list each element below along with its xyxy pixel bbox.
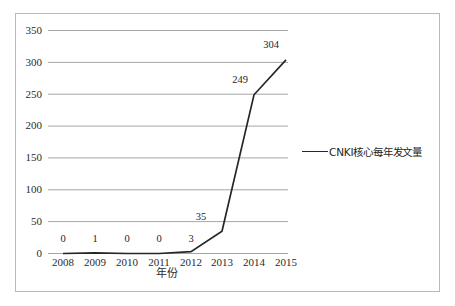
data-label-2012: 3 xyxy=(180,233,202,244)
ytick-label-350: 350 xyxy=(8,25,42,36)
data-label-2010: 0 xyxy=(116,233,138,244)
data-label-2008: 0 xyxy=(52,233,74,244)
xtick-label-2014: 2014 xyxy=(237,257,271,268)
legend-line-swatch-icon xyxy=(302,151,328,152)
chart-legend: CNKI核心每年发文量 xyxy=(302,144,422,159)
xtick-label-2015: 2015 xyxy=(269,257,303,268)
legend-entry-label: CNKI核心每年发文量 xyxy=(329,144,422,159)
ytick-label-200: 200 xyxy=(8,120,42,131)
xtick-label-2010: 2010 xyxy=(110,257,144,268)
data-label-2014: 249 xyxy=(228,74,252,85)
ytick-label-50: 50 xyxy=(8,216,42,227)
data-label-2013: 35 xyxy=(190,211,212,222)
xtick-label-2009: 2009 xyxy=(78,257,112,268)
x-axis-title: 年份 xyxy=(137,268,197,280)
xtick-label-2012: 2012 xyxy=(174,257,208,268)
chart-figure: 350 300 250 200 150 100 50 0 2008 2009 2… xyxy=(0,0,455,306)
data-label-2011: 0 xyxy=(148,233,170,244)
ytick-label-150: 150 xyxy=(8,152,42,163)
xtick-label-2008: 2008 xyxy=(46,257,80,268)
ytick-label-300: 300 xyxy=(8,57,42,68)
data-label-2015: 304 xyxy=(259,39,283,50)
ytick-label-0: 0 xyxy=(8,248,42,259)
xtick-label-2013: 2013 xyxy=(205,257,239,268)
data-label-2009: 1 xyxy=(84,233,106,244)
ytick-label-100: 100 xyxy=(8,184,42,195)
ytick-label-250: 250 xyxy=(8,89,42,100)
